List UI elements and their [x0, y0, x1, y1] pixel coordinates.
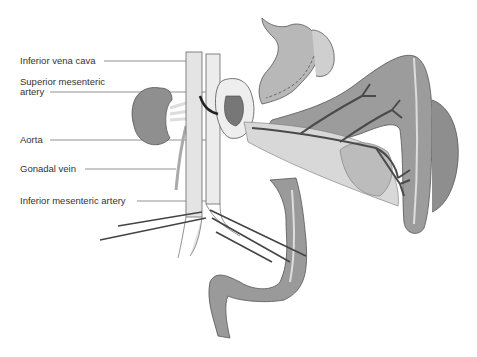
gonadal-vein [176, 126, 186, 190]
label-gonadal-vein: Gonadal vein [20, 163, 76, 174]
label-aorta: Aorta [20, 134, 43, 145]
retractors [100, 210, 306, 262]
anatomy-illustration [0, 0, 477, 357]
label-superior-mesenteric-artery-line2: artery [20, 86, 44, 97]
label-inferior-mesenteric-artery: Inferior mesenteric artery [20, 195, 126, 206]
aorta [206, 54, 220, 204]
inferior-vena-cava [186, 52, 202, 217]
label-inferior-vena-cava: Inferior vena cava [20, 55, 96, 66]
stomach [259, 18, 318, 104]
